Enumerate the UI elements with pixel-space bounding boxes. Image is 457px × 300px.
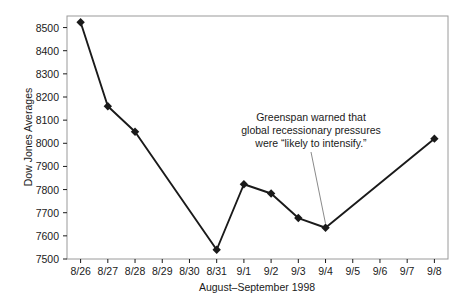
y-axis-tick-label: 8400	[36, 45, 60, 57]
x-axis-tick-label: 8/26	[70, 265, 91, 277]
x-axis-tick-label: 9/3	[291, 265, 306, 277]
x-axis-tick-label: 9/2	[264, 265, 279, 277]
x-axis-tick-label: 8/31	[206, 265, 227, 277]
annotation-line-1: Greenspan warned that	[256, 111, 366, 123]
y-axis-tick-label: 7900	[36, 160, 60, 172]
x-axis-tick-label: 8/28	[125, 265, 146, 277]
y-axis-tick-label: 7600	[36, 230, 60, 242]
x-axis-title: August–September 1998	[199, 281, 315, 293]
y-axis-tick-label: 8000	[36, 137, 60, 149]
x-axis-tick-label: 8/30	[179, 265, 200, 277]
x-axis-tick-label: 9/8	[427, 265, 442, 277]
x-axis-tick-label: 8/27	[98, 265, 119, 277]
annotation-line-2: global recessionary pressures	[241, 124, 380, 136]
y-axis-tick-label: 8300	[36, 68, 60, 80]
x-axis-tick-label: 9/4	[318, 265, 333, 277]
y-axis-tick-label: 8100	[36, 114, 60, 126]
y-axis-tick-label: 7500	[36, 253, 60, 265]
y-axis-title: Dow Jones Averages	[22, 88, 34, 186]
chart-background	[0, 0, 457, 300]
y-axis-tick-label: 7700	[36, 207, 60, 219]
y-axis-tick-label: 8500	[36, 22, 60, 34]
dow-jones-line-chart: 7500760077007800790080008100820083008400…	[0, 0, 457, 300]
x-axis-tick-label: 9/7	[400, 265, 415, 277]
x-axis-tick-label: 9/1	[237, 265, 252, 277]
annotation-line-3: were “likely to intensify.”	[254, 137, 367, 149]
chart-page: 7500760077007800790080008100820083008400…	[0, 0, 457, 300]
x-axis-tick-label: 8/29	[152, 265, 173, 277]
x-axis-tick-label: 9/6	[373, 265, 388, 277]
x-axis-tick-label: 9/5	[345, 265, 360, 277]
y-axis-tick-label: 7800	[36, 184, 60, 196]
y-axis-tick-label: 8200	[36, 91, 60, 103]
